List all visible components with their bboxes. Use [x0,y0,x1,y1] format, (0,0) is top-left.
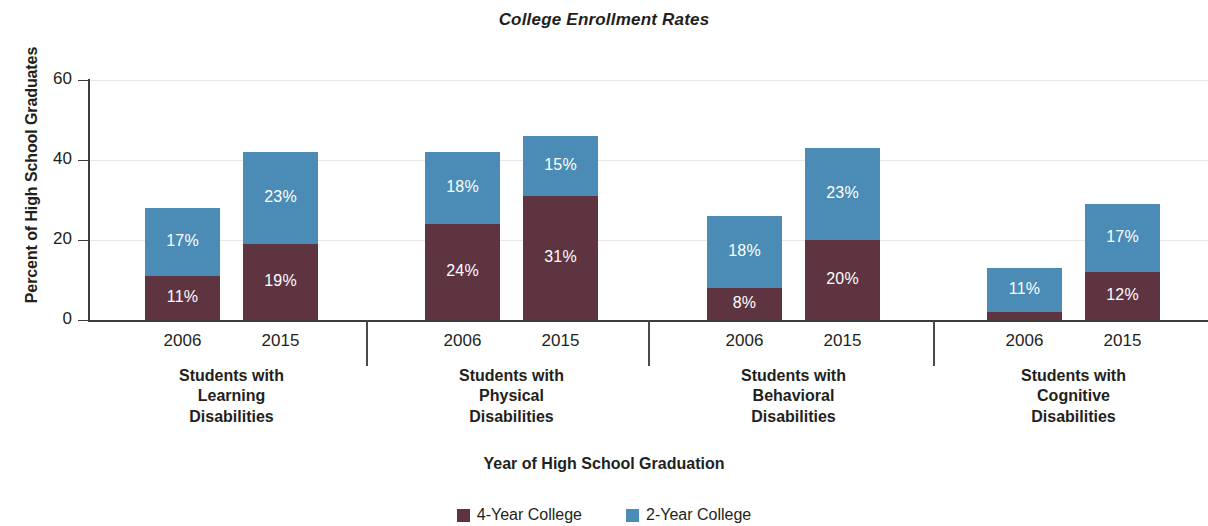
x-axis-year-label: 2015 [506,331,616,351]
bar-value-label: 11% [145,289,220,305]
bar-value-label: 15% [523,157,598,173]
bar-segment-4-year: 19% [243,244,318,320]
x-axis-title: Year of High School Graduation [0,455,1208,473]
y-axis-title: Percent of High School Graduates [23,10,41,340]
y-axis-tick-label: 0 [10,309,72,329]
bar-segment-2-year: 18% [707,216,782,288]
group-separator [366,321,368,366]
group-label-line: Behavioral [654,386,934,406]
bar-segment-4-year: 12% [1085,272,1160,320]
bar-value-label: 8% [707,295,782,311]
group-separator [648,321,650,366]
x-axis-year-label: 2015 [788,331,898,351]
group-label-line: Disabilities [92,407,372,427]
chart-legend: 4-Year College2-Year College [0,506,1208,524]
x-axis-year-label: 2006 [970,331,1080,351]
bar-segment-2-year: 23% [243,152,318,244]
gridline [88,80,1208,81]
group-label-line: Learning [92,386,372,406]
group-label-line: Students with [92,366,372,386]
y-axis-tick-label: 20 [10,229,72,249]
bar-segment-4-year: 24% [425,224,500,320]
bar-value-label: 31% [523,249,598,265]
x-axis-group-label: Students withBehavioralDisabilities [654,366,934,427]
bar-segment-2-year: 17% [1085,204,1160,272]
x-axis-year-label: 2006 [690,331,800,351]
x-axis-group-label: Students withCognitiveDisabilities [934,366,1208,427]
x-axis-year-label: 2015 [1068,331,1178,351]
legend-item-label: 4-Year College [477,506,582,524]
chart-title: College Enrollment Rates [0,10,1208,30]
group-label-line: Physical [372,386,652,406]
legend-swatch-icon [457,509,470,522]
bar-segment-2-year: 11% [987,268,1062,312]
y-axis-tick-label: 60 [10,69,72,89]
group-label-line: Disabilities [372,407,652,427]
group-label-line: Disabilities [934,407,1208,427]
bar-value-label: 23% [243,189,318,205]
y-axis-tick [78,80,88,81]
bar-value-label: 23% [805,185,880,201]
bar-value-label: 24% [425,263,500,279]
y-axis-tick-label: 40 [10,149,72,169]
group-label-line: Students with [934,366,1208,386]
bar-segment-4-year: 11% [145,276,220,320]
chart-container: College Enrollment Rates Percent of High… [0,0,1208,526]
bar-segment-2-year: 17% [145,208,220,276]
bar-value-label: 12% [1085,287,1160,303]
bar-value-label: 11% [987,281,1062,297]
legend-swatch-icon [626,509,639,522]
x-axis-group-label: Students withLearningDisabilities [92,366,372,427]
bar-segment-2-year: 18% [425,152,500,224]
group-label-line: Disabilities [654,407,934,427]
bar-segment-4-year: 20% [805,240,880,320]
x-axis-year-label: 2015 [226,331,336,351]
group-separator [933,321,935,366]
y-axis-tick [78,320,88,321]
bar-segment-2-year: 23% [805,148,880,240]
bar-value-label: 17% [1085,229,1160,245]
group-label-line: Cognitive [934,386,1208,406]
x-axis-year-label: 2006 [128,331,238,351]
bar-segment-2-year: 15% [523,136,598,196]
group-label-line: Students with [654,366,934,386]
bar-segment-4-year: 31% [523,196,598,320]
bar-value-label: 18% [707,243,782,259]
bar-segment-4-year: 2% [987,312,1062,320]
y-axis-line [88,79,90,321]
bar-segment-4-year: 8% [707,288,782,320]
bar-value-label: 19% [243,273,318,289]
group-label-line: Students with [372,366,652,386]
bar-value-label: 20% [805,271,880,287]
legend-item[interactable]: 4-Year College [457,506,582,524]
x-axis-group-label: Students withPhysicalDisabilities [372,366,652,427]
bar-value-label: 18% [425,179,500,195]
legend-item-label: 2-Year College [646,506,751,524]
bar-value-label: 17% [145,233,220,249]
y-axis-tick [78,160,88,161]
legend-item[interactable]: 2-Year College [626,506,751,524]
x-axis-year-label: 2006 [408,331,518,351]
y-axis-tick [78,240,88,241]
